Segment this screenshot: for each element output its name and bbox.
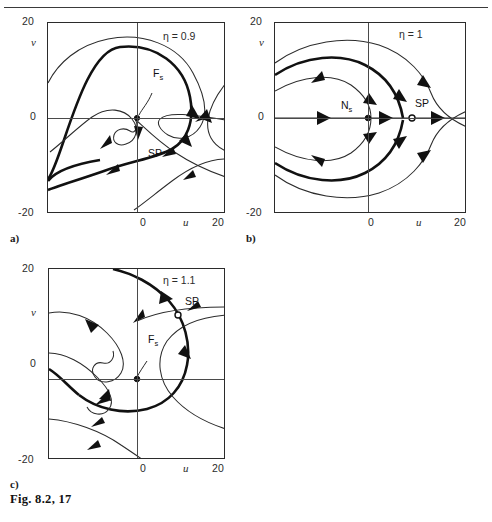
- panel-a-y-zero-tick: 0: [30, 110, 36, 122]
- panel-c-y-axis-line: [137, 269, 138, 458]
- panel-c-plot-box: Fs SP: [48, 268, 225, 459]
- panel-b-x-axis-line: [275, 118, 465, 119]
- figure-page: 20 0 -20 v 0 20 u η = 0.9 a): [0, 0, 492, 522]
- panel-c-y-zero-tick: 0: [30, 357, 36, 369]
- panel-c-y-top-tick: 20: [22, 262, 34, 274]
- panel-a-fixed-point-fs: Fs: [153, 67, 163, 82]
- panel-b-ns-sub: s: [349, 105, 353, 114]
- panel-b-x-right-tick: 20: [454, 216, 466, 228]
- panel-b-ns-main: N: [341, 99, 349, 111]
- panel-a-x-right-tick: 20: [212, 216, 224, 228]
- panel-b-fixed-point-sp: SP: [415, 97, 429, 109]
- panel-c-x-zero-tick: 0: [140, 462, 146, 474]
- panel-c-x-right-tick: 20: [212, 462, 224, 474]
- panel-c-fs-sub: s: [154, 339, 158, 348]
- panel-b-y-top-tick: 20: [250, 15, 262, 27]
- panel-a: 20 0 -20 v 0 20 u η = 0.9 a): [0, 0, 246, 250]
- panel-c-y-bottom-tick: -20: [18, 453, 34, 465]
- panel-a-y-bottom-tick: -20: [18, 206, 34, 218]
- panel-b-y-zero-tick: 0: [258, 110, 264, 122]
- panel-b-y-axis-label: v: [259, 36, 264, 48]
- panel-c-fixed-point-sp: SP: [185, 295, 199, 307]
- panel-a-y-axis-label: v: [31, 36, 36, 48]
- panel-c-fixed-point-fs: Fs: [148, 333, 158, 348]
- panel-a-y-axis-line: [137, 23, 138, 212]
- panel-b-y-axis-line: [368, 23, 369, 212]
- panel-b-x-axis-label: u: [416, 216, 422, 228]
- panel-a-fixed-point-sp: SP: [148, 147, 162, 159]
- panel-b-fixed-point-ns: Ns: [341, 99, 352, 114]
- panel-a-x-axis-label: u: [183, 216, 189, 228]
- panel-a-x-axis-line: [48, 118, 224, 119]
- panel-c-x-axis-label: u: [183, 462, 189, 474]
- panel-b: 20 0 -20 v 0 20 u η = 1 b): [246, 0, 492, 250]
- panel-a-letter: a): [10, 232, 19, 244]
- panel-c-y-axis-label: v: [31, 306, 36, 318]
- panel-a-plot-box: Fs SP: [47, 22, 225, 213]
- figure-caption: Fig. 8.2, 17: [10, 492, 72, 507]
- panel-b-plot-box: Ns SP: [274, 22, 466, 213]
- panel-a-fs-sub: s: [159, 73, 163, 82]
- panel-b-y-bottom-tick: -20: [246, 206, 262, 218]
- panel-c-letter: c): [10, 478, 19, 490]
- panel-b-letter: b): [246, 232, 256, 244]
- panel-b-x-zero-tick: 0: [368, 216, 374, 228]
- panel-a-y-top-tick: 20: [22, 15, 34, 27]
- panel-a-x-zero-tick: 0: [140, 216, 146, 228]
- panel-c: 20 0 -20 v 0 20 u η = 1.1 c): [0, 250, 246, 522]
